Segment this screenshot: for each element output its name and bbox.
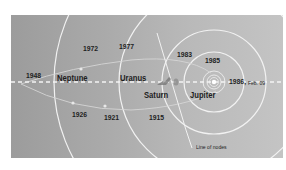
year-label: 1972 — [83, 45, 98, 53]
year-label: 1985 — [205, 57, 220, 65]
comet-path-lower — [21, 84, 216, 110]
sun-icon — [212, 80, 216, 84]
diagram-panel: Neptune Uranus Saturn Jupiter 1948 1972 … — [11, 15, 283, 158]
uranus-orbit — [119, 15, 283, 158]
neptune-orbit — [54, 15, 283, 158]
year-label: 1977 — [119, 43, 134, 51]
year-label: 1921 — [104, 114, 119, 122]
planet-label-jupiter: Jupiter — [190, 91, 216, 100]
spacecraft-icon — [174, 79, 179, 86]
line-of-nodes-label: Line of nodes — [196, 144, 227, 150]
date-note: Feb. 09 — [248, 81, 265, 86]
year-label: 1986, — [229, 78, 246, 86]
spacecraft-icon — [157, 77, 171, 85]
orbit-diagram — [11, 15, 283, 158]
year-label: 1915 — [149, 114, 164, 122]
year-label: 1983 — [177, 51, 192, 59]
year-label: 1948 — [26, 72, 41, 80]
year-label: 1926 — [72, 111, 87, 119]
comet-path-upper — [21, 59, 211, 84]
planet-label-neptune: Neptune — [57, 74, 88, 83]
planet-label-saturn: Saturn — [144, 91, 168, 100]
planet-label-uranus: Uranus — [120, 74, 146, 83]
